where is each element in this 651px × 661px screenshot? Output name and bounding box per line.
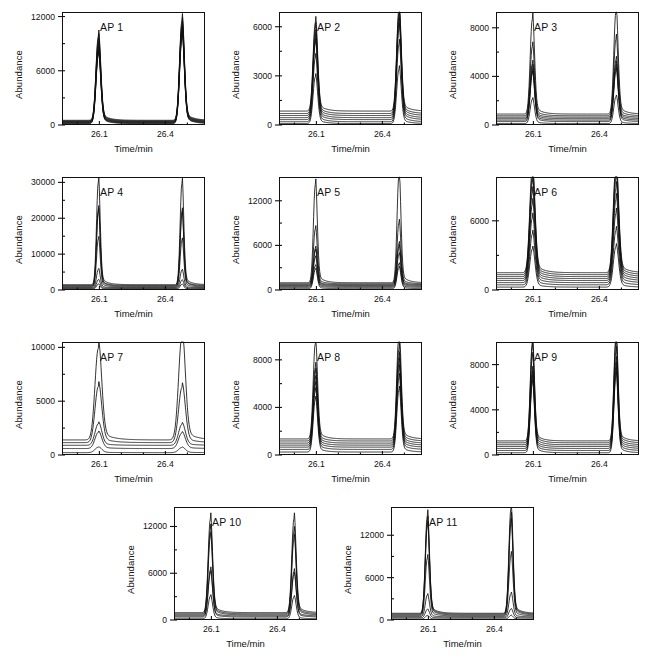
y-axis-tick-label: 5000 (0, 396, 55, 406)
x-axis-title: Time/min (279, 308, 422, 319)
x-axis-title: Time/min (62, 473, 205, 484)
y-axis-title: Abundance (447, 50, 458, 99)
y-axis-title: Abundance (13, 215, 24, 264)
y-axis-tick-label: 8000 (217, 355, 272, 365)
y-axis-tick-label: 0 (217, 450, 272, 460)
chromatogram-trace (62, 447, 205, 453)
y-axis-tick-label: 6000 (329, 573, 384, 583)
x-axis-title: Time/min (496, 308, 639, 319)
chromatogram-trace (496, 95, 639, 124)
chromatogram-trace (279, 18, 422, 118)
x-axis-title: Time/min (391, 638, 534, 649)
y-axis-title: Abundance (13, 380, 24, 429)
y-axis-tick-label: 4000 (434, 71, 489, 81)
x-axis-title: Time/min (496, 473, 639, 484)
x-axis-tick-label: 26.4 (157, 129, 174, 139)
y-axis-tick-label: 0 (0, 120, 55, 130)
x-axis-tick-label: 26.1 (308, 459, 325, 469)
y-axis-tick-label: 8000 (434, 360, 489, 370)
y-axis-tick-label: 3000 (217, 71, 272, 81)
y-axis-tick-label: 12000 (329, 530, 384, 540)
x-axis-title: Time/min (62, 308, 205, 319)
x-axis-tick-label: 26.4 (374, 129, 391, 139)
panel-label: AP 11 (429, 516, 458, 528)
panel-label: AP 10 (212, 516, 241, 528)
chromatogram-panel: 03000600026.126.4AbundanceTime/minAP 2 (217, 0, 434, 165)
panel-label: AP 1 (100, 21, 123, 33)
panel-label: AP 8 (317, 351, 340, 363)
chromatogram-trace (391, 551, 534, 616)
y-axis-tick-label: 6000 (217, 22, 272, 32)
chromatogram-panel: 04000800026.126.4AbundanceTime/minAP 3 (434, 0, 651, 165)
chromatogram-trace (279, 23, 422, 119)
y-axis-tick-label: 0 (0, 450, 55, 460)
x-axis-tick-label: 26.1 (525, 459, 542, 469)
x-axis-tick-label: 26.1 (91, 294, 108, 304)
x-axis-tick-label: 26.4 (591, 129, 608, 139)
x-axis-title: Time/min (62, 143, 205, 154)
x-axis-tick-label: 26.1 (91, 459, 108, 469)
chromatogram-trace (279, 373, 422, 449)
chromatogram-panel: 010000200003000026.126.4AbundanceTime/mi… (0, 165, 217, 330)
y-axis-tick-label: 0 (329, 615, 384, 625)
panel-label: AP 2 (317, 21, 340, 33)
y-axis-tick-label: 6000 (112, 568, 167, 578)
y-axis-tick-label: 12000 (112, 521, 167, 531)
y-axis-tick-label: 4000 (217, 402, 272, 412)
chromatogram-trace (496, 64, 639, 120)
chromatogram-panel: 050001000026.126.4AbundanceTime/minAP 7 (0, 330, 217, 495)
y-axis-tick-label: 10000 (0, 342, 55, 352)
y-axis-tick-label: 30000 (0, 177, 55, 187)
y-axis-title: Abundance (447, 380, 458, 429)
x-axis-tick-label: 26.1 (203, 624, 220, 634)
y-axis-tick-label: 0 (217, 120, 272, 130)
y-axis-title: Abundance (230, 215, 241, 264)
x-axis-tick-label: 26.4 (157, 294, 174, 304)
x-axis-title: Time/min (279, 473, 422, 484)
x-axis-title: Time/min (496, 143, 639, 154)
x-axis-title: Time/min (279, 143, 422, 154)
panel-label: AP 4 (100, 186, 123, 198)
chromatogram-trace (174, 513, 317, 613)
chromatogram-panel: 060001200026.126.4AbundanceTime/minAP 1 (0, 0, 217, 165)
y-axis-tick-label: 0 (0, 285, 55, 295)
chromatogram-trace (174, 567, 317, 616)
chromatogram-trace (496, 68, 639, 122)
chromatogram-trace (279, 386, 422, 452)
y-axis-tick-label: 0 (434, 285, 489, 295)
x-axis-tick-label: 26.4 (157, 459, 174, 469)
y-axis-tick-label: 8000 (434, 23, 489, 33)
y-axis-tick-label: 0 (217, 285, 272, 295)
y-axis-tick-label: 12000 (217, 196, 272, 206)
y-axis-title: Abundance (125, 545, 136, 594)
y-axis-tick-label: 6000 (217, 240, 272, 250)
x-axis-tick-label: 26.1 (91, 129, 108, 139)
chromatogram-trace (496, 61, 639, 119)
panel-label: AP 6 (534, 186, 557, 198)
y-axis-tick-label: 20000 (0, 213, 55, 223)
x-axis-tick-label: 26.1 (525, 129, 542, 139)
y-axis-title: Abundance (342, 545, 353, 594)
chromatogram-panel: 060001200026.126.4AbundanceTime/minAP 10 (112, 495, 329, 660)
chromatogram-trace (496, 226, 639, 285)
x-axis-tick-label: 26.4 (486, 624, 503, 634)
panel-label: AP 9 (534, 351, 557, 363)
panel-label: AP 3 (534, 21, 557, 33)
x-axis-tick-label: 26.4 (269, 624, 286, 634)
chromatogram-trace (496, 366, 639, 450)
chromatogram-panel-grid: 060001200026.126.4AbundanceTime/minAP 10… (0, 0, 651, 661)
y-axis-title: Abundance (447, 215, 458, 264)
x-axis-tick-label: 26.1 (420, 624, 437, 634)
x-axis-tick-label: 26.4 (591, 459, 608, 469)
chromatogram-trace (496, 182, 639, 279)
x-axis-tick-label: 26.4 (374, 459, 391, 469)
y-axis-tick-label: 0 (112, 615, 167, 625)
y-axis-tick-label: 0 (434, 450, 489, 460)
chromatogram-trace (62, 32, 205, 123)
y-axis-tick-label: 6000 (0, 66, 55, 76)
chromatogram-panel: 060001200026.126.4AbundanceTime/minAP 11 (329, 495, 546, 660)
panel-label: AP 5 (317, 186, 340, 198)
x-axis-tick-label: 26.1 (525, 294, 542, 304)
x-axis-tick-label: 26.4 (591, 294, 608, 304)
chromatogram-panel: 04000800026.126.4AbundanceTime/minAP 8 (217, 330, 434, 495)
